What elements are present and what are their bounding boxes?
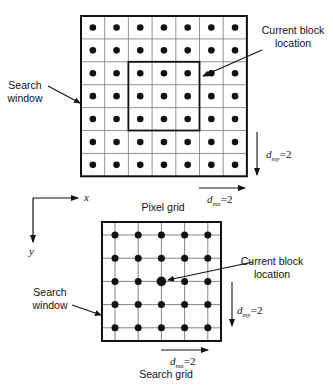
pixel-dot — [137, 93, 144, 100]
pixel-dot — [232, 116, 239, 123]
search-point — [112, 301, 119, 308]
pixel-dot — [137, 116, 144, 123]
search-grid-caption: Search grid — [139, 368, 193, 380]
pixel-dot — [232, 70, 239, 77]
search-point — [204, 278, 211, 285]
current-block-point — [157, 277, 167, 287]
pixel-dot — [90, 47, 97, 54]
pixel-dot — [232, 139, 239, 146]
search-point — [112, 324, 119, 331]
pixel-dot — [90, 162, 97, 169]
search-grid — [102, 222, 221, 341]
pixel-dot — [161, 70, 168, 77]
motion-search-diagram: Current block location Search window dmy… — [0, 0, 333, 389]
pixel-dot — [184, 162, 191, 169]
pixel-dot — [184, 47, 191, 54]
search-point — [181, 232, 188, 239]
search-point — [158, 232, 165, 239]
pixel-dot — [232, 24, 239, 31]
pixel-dot — [208, 93, 215, 100]
search-search-window-label-line2: window — [31, 299, 67, 311]
pixel-dot — [137, 139, 144, 146]
search-dmy-label: dmy=2 — [237, 304, 262, 319]
search-point — [204, 301, 211, 308]
search-point — [181, 255, 188, 262]
search-point — [181, 278, 188, 285]
search-current-block-label-line2: location — [254, 268, 290, 280]
pixel-dot — [137, 70, 144, 77]
pixel-dot — [184, 93, 191, 100]
current-block-label-line2: location — [275, 37, 311, 49]
search-point — [135, 301, 142, 308]
pixel-dot — [232, 93, 239, 100]
pixel-dot — [184, 116, 191, 123]
pixel-dot — [161, 47, 168, 54]
dmy-label: dmy=2 — [266, 148, 291, 163]
pixel-dot — [161, 139, 168, 146]
pixel-dot — [113, 116, 120, 123]
pixel-grid-caption: Pixel grid — [141, 201, 184, 213]
search-point — [204, 232, 211, 239]
search-point — [135, 278, 142, 285]
search-current-block-arrow — [168, 262, 253, 280]
pixel-dot — [208, 139, 215, 146]
search-point — [135, 255, 142, 262]
pixel-grid — [81, 16, 247, 176]
search-point — [158, 255, 165, 262]
pixel-dot — [90, 139, 97, 146]
search-point — [112, 278, 119, 285]
search-search-window-arrow — [72, 305, 101, 315]
search-point — [158, 301, 165, 308]
dmx-label: dmx=2 — [207, 193, 232, 208]
search-window-arrow — [48, 86, 80, 103]
pixel-dot — [90, 93, 97, 100]
search-window-label-line2: window — [6, 92, 42, 104]
pixel-dot — [113, 93, 120, 100]
search-point — [204, 324, 211, 331]
x-axis-label: x — [83, 191, 89, 203]
search-point — [204, 255, 211, 262]
pixel-dot — [208, 162, 215, 169]
pixel-dot — [137, 24, 144, 31]
search-point — [158, 324, 165, 331]
pixel-dot — [232, 162, 239, 169]
pixel-dot — [90, 24, 97, 31]
pixel-dot — [184, 70, 191, 77]
pixel-dot — [90, 70, 97, 77]
pixel-dot — [137, 162, 144, 169]
pixel-dot — [161, 93, 168, 100]
search-current-block-label-line1: Current block — [241, 255, 304, 267]
pixel-dot — [161, 116, 168, 123]
search-point — [181, 301, 188, 308]
search-search-window-label-line1: Search — [33, 286, 66, 298]
search-point — [112, 255, 119, 262]
pixel-dot — [208, 47, 215, 54]
pixel-dot — [113, 70, 120, 77]
pixel-dot — [137, 47, 144, 54]
pixel-dot — [232, 47, 239, 54]
pixel-dot — [184, 139, 191, 146]
pixel-dot — [90, 116, 97, 123]
pixel-dot — [161, 24, 168, 31]
search-window-label-line1: Search — [8, 79, 41, 91]
search-point — [181, 324, 188, 331]
pixel-dot — [208, 116, 215, 123]
pixel-dot — [161, 162, 168, 169]
search-point — [135, 324, 142, 331]
search-point — [135, 232, 142, 239]
y-axis-label: y — [28, 245, 34, 257]
pixel-dot — [208, 24, 215, 31]
current-block-label-line1: Current block — [262, 24, 325, 36]
pixel-dot — [113, 162, 120, 169]
pixel-dot — [113, 139, 120, 146]
pixel-dot — [113, 24, 120, 31]
pixel-dot — [113, 47, 120, 54]
search-point — [112, 232, 119, 239]
pixel-dot — [184, 24, 191, 31]
